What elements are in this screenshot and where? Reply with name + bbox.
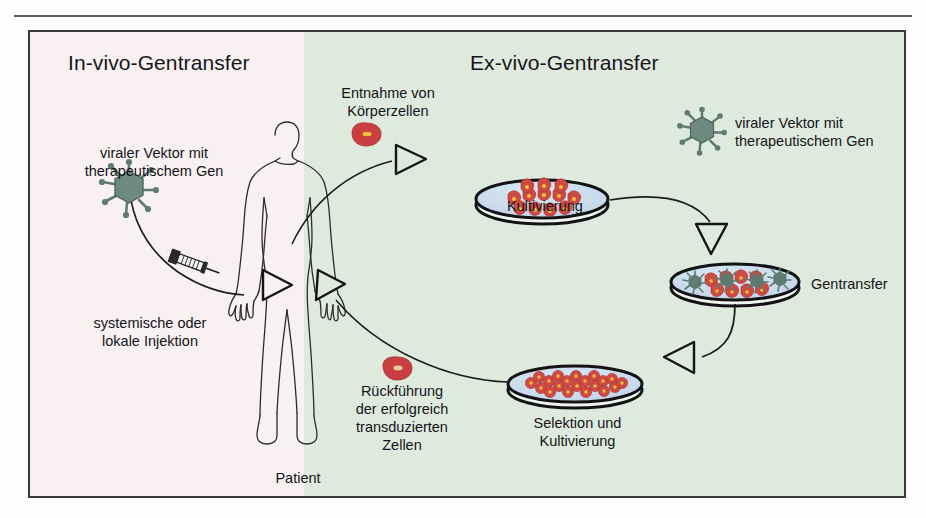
label-selection-cultivation: Selektion und Kultivierung [495, 414, 660, 450]
panel-title-invivo: In-vivo-Gentransfer [68, 51, 250, 75]
label-reinfusion: Rückführung der erfolgreich transduziert… [328, 382, 476, 454]
label-gene-transfer: Gentransfer [811, 275, 906, 293]
figure-page: In-vivo-Gentransfer Ex-vivo-Gentransfer [0, 0, 926, 518]
panel-title-exvivo: Ex-vivo-Gentransfer [470, 51, 659, 75]
label-viral-vector-left: viraler Vektor mit therapeutischem Gen [64, 144, 244, 180]
diagram-frame: In-vivo-Gentransfer Ex-vivo-Gentransfer [28, 30, 906, 498]
top-divider-rule [14, 15, 912, 17]
label-injection: systemische oder lokale Injektion [60, 314, 240, 350]
panel-invivo-background [30, 32, 304, 496]
label-cultivation: Kultivierung [470, 197, 620, 215]
label-viral-vector-right: viraler Vektor mit therapeutischem Gen [735, 114, 906, 150]
label-patient: Patient [248, 469, 348, 487]
label-cell-harvest: Entnahme von Körperzellen [303, 84, 473, 120]
